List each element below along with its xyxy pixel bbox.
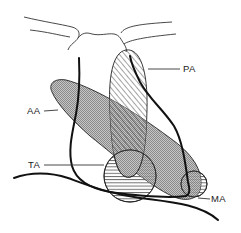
label-pa: PA	[183, 63, 196, 74]
label-ma: MA	[211, 193, 226, 204]
leader-aa	[44, 110, 58, 111]
anatomical-diagram: PA AA TA MA	[0, 0, 241, 233]
bone-outline	[24, 17, 176, 52]
leader-ma	[198, 198, 210, 199]
label-aa: AA	[27, 105, 41, 116]
label-ta: TA	[28, 159, 40, 170]
